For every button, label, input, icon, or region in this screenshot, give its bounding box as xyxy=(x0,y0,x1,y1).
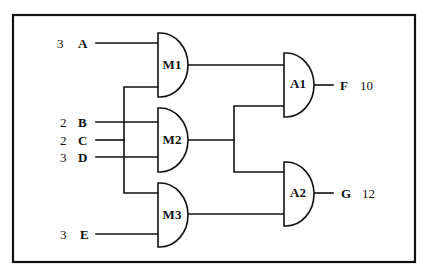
input-e: 3 E xyxy=(60,227,89,242)
output-g-value: 12 xyxy=(362,186,375,201)
wire-c-bus-m1-m3 xyxy=(124,87,158,193)
gate-m3: M3 xyxy=(158,183,188,247)
input-e-value: 3 xyxy=(60,227,67,242)
gate-m2: M2 xyxy=(158,108,188,172)
input-b-value: 2 xyxy=(60,115,67,130)
input-c-value: 2 xyxy=(60,133,67,148)
input-a-name: A xyxy=(78,36,88,51)
output-f: F 10 xyxy=(340,78,373,93)
input-d: 3 D xyxy=(60,150,87,165)
output-g-name: G xyxy=(341,186,351,201)
gate-a2-label: A2 xyxy=(290,185,306,200)
wire-m2-a1-a2 xyxy=(234,106,284,172)
input-a: 3 A xyxy=(57,36,88,51)
input-e-name: E xyxy=(80,227,89,242)
input-c-name: C xyxy=(78,133,87,148)
gate-m2-label: M2 xyxy=(163,132,182,147)
input-d-value: 3 xyxy=(60,150,67,165)
gate-a1: A1 xyxy=(284,53,314,117)
output-f-name: F xyxy=(340,78,348,93)
input-c: 2 C xyxy=(60,133,87,148)
gate-m1-label: M1 xyxy=(163,57,182,72)
input-b: 2 B xyxy=(60,115,87,130)
input-d-name: D xyxy=(78,150,87,165)
diagram-frame xyxy=(13,15,415,262)
gate-m1: M1 xyxy=(158,33,188,97)
gate-m3-label: M3 xyxy=(163,207,182,222)
gate-a2: A2 xyxy=(284,162,314,226)
input-b-name: B xyxy=(78,115,87,130)
gate-a1-label: A1 xyxy=(290,76,306,91)
output-f-value: 10 xyxy=(360,78,373,93)
circuit-diagram: M1 M2 M3 A1 A2 3 A 2 B 2 C 3 D 3 E F 10 xyxy=(0,0,428,278)
output-g: G 12 xyxy=(341,186,375,201)
input-a-value: 3 xyxy=(57,36,64,51)
